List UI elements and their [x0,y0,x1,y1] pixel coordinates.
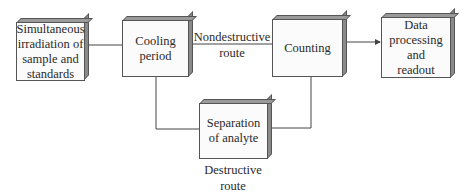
node-data-line-2: processing [389,33,442,48]
node-irradiation-line-3: sample and [16,52,84,67]
edge-separation-counting [270,77,311,128]
node-data-line-4: readout [389,63,442,78]
label-destructive-line-1: Destructive [193,163,273,177]
node-separation-line-2: of analyte [207,131,260,146]
label-destructive-route: Destructive route [193,163,273,193]
node-irradiation-line-1: Simultaneous [16,22,84,37]
label-nondestructive-line-1: Nondestructive [190,30,274,44]
node-counting-label: Counting [284,41,331,56]
node-separation-line-1: Separation [207,116,260,131]
label-nondestructive-route: Nondestructive route [190,30,274,60]
node-data-line-3: and [389,48,442,63]
node-cooling-line-1: Cooling [135,34,175,49]
node-cooling-line-2: period [135,49,175,64]
label-nondestructive-line-2: route [190,46,274,60]
node-irradiation-line-2: irradiation of [16,37,84,52]
label-destructive-line-2: route [193,179,273,193]
node-irradiation-line-4: standards [16,67,84,82]
node-data-line-1: Data [389,18,442,33]
edge-cooling-separation [156,77,199,129]
